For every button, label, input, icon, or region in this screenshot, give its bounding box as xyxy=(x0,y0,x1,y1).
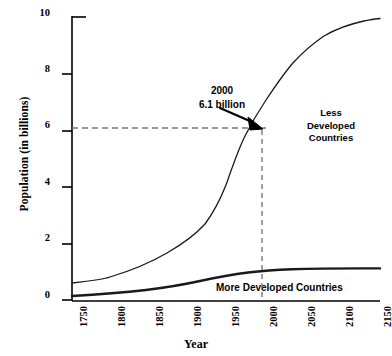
series-line-less-developed-countries xyxy=(72,19,380,284)
population-growth-chart: Population (in billions) 0 2 4 6 8 10 17… xyxy=(0,0,392,356)
plot-area xyxy=(0,0,392,356)
series-line-more-developed-countries xyxy=(72,268,380,296)
annotation-arrow-head-icon xyxy=(248,117,263,130)
annotation-arrow-shaft xyxy=(220,108,252,122)
